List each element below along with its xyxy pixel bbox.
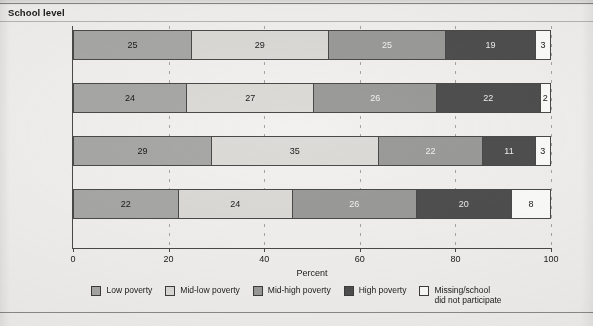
bar-value-label: 22 <box>425 147 435 156</box>
bar-row: 252925193 <box>73 30 551 60</box>
bar-value-label: 8 <box>528 200 533 209</box>
plot-area: 020406080100 Total252925193Elementary242… <box>73 26 551 248</box>
axis-tick <box>455 248 456 252</box>
bar-segment: 22 <box>74 190 179 218</box>
x-tick-label: 20 <box>164 254 174 264</box>
x-tick-label: 100 <box>543 254 558 264</box>
bar-value-label: 24 <box>230 200 240 209</box>
bar-row: 222426208 <box>73 189 551 219</box>
legend-item[interactable]: High poverty <box>344 286 407 296</box>
legend-item[interactable]: Low poverty <box>91 286 152 296</box>
legend-label: Missing/school did not participate <box>434 286 501 305</box>
axis-tick <box>169 248 170 252</box>
x-tick-label: 80 <box>450 254 460 264</box>
bar-segment: 35 <box>212 137 379 165</box>
bar-value-label: 3 <box>540 41 545 50</box>
bar-segment: 24 <box>74 84 187 112</box>
x-tick-label: 0 <box>70 254 75 264</box>
bar-segment: 27 <box>187 84 314 112</box>
bar-segment: 11 <box>483 137 535 165</box>
bar-segment: 29 <box>192 31 329 59</box>
bar-segment: 26 <box>314 84 437 112</box>
bar-segment: 20 <box>417 190 512 218</box>
legend-item[interactable]: Mid-high poverty <box>253 286 331 296</box>
figure: School level 020406080100 Total252925193… <box>0 0 593 326</box>
bar-segment: 3 <box>536 137 550 165</box>
bar-segment: 29 <box>74 137 212 165</box>
bar-value-label: 29 <box>138 147 148 156</box>
bar-segment: 22 <box>379 137 484 165</box>
bar-value-label: 2 <box>543 94 548 103</box>
bar-segment: 2 <box>541 84 550 112</box>
bar-segment: 26 <box>293 190 417 218</box>
legend-label: Low poverty <box>106 286 152 296</box>
bar-value-label: 24 <box>125 94 135 103</box>
bar-value-label: 20 <box>459 200 469 209</box>
legend-item[interactable]: Missing/school did not participate <box>419 286 501 305</box>
x-tick-label: 40 <box>259 254 269 264</box>
bar-segment: 24 <box>179 190 293 218</box>
bar-segment: 19 <box>446 31 536 59</box>
legend-item[interactable]: Mid-low poverty <box>165 286 240 296</box>
bar-value-label: 26 <box>349 200 359 209</box>
gridline <box>551 26 552 248</box>
bar-segment: 25 <box>329 31 447 59</box>
bar-value-label: 27 <box>245 94 255 103</box>
legend-swatch-icon <box>253 286 263 296</box>
legend-swatch-icon <box>344 286 354 296</box>
page-title: School level <box>8 7 65 18</box>
top-divider <box>0 3 593 4</box>
bar-value-label: 22 <box>121 200 131 209</box>
bar-segment: 25 <box>74 31 192 59</box>
legend: Low povertyMid-low povertyMid-high pover… <box>0 286 593 305</box>
axis-tick <box>73 248 74 252</box>
bottom-divider <box>0 312 593 313</box>
legend-swatch-icon <box>419 286 429 296</box>
x-axis-line <box>72 248 552 249</box>
bar-segment: 22 <box>437 84 541 112</box>
axis-tick <box>360 248 361 252</box>
bar-value-label: 25 <box>382 41 392 50</box>
bar-value-label: 3 <box>540 147 545 156</box>
title-divider <box>0 21 593 22</box>
bar-segment: 3 <box>536 31 550 59</box>
legend-swatch-icon <box>91 286 101 296</box>
legend-label: Mid-high poverty <box>268 286 331 296</box>
legend-label: High poverty <box>359 286 407 296</box>
x-tick-label: 60 <box>355 254 365 264</box>
bar-row: 293522113 <box>73 136 551 166</box>
bar-segment: 8 <box>512 190 550 218</box>
bar-value-label: 25 <box>127 41 137 50</box>
bar-value-label: 19 <box>486 41 496 50</box>
axis-tick <box>551 248 552 252</box>
legend-swatch-icon <box>165 286 175 296</box>
bar-value-label: 29 <box>255 41 265 50</box>
legend-label: Mid-low poverty <box>180 286 240 296</box>
bar-value-label: 26 <box>370 94 380 103</box>
bar-value-label: 22 <box>483 94 493 103</box>
axis-tick <box>264 248 265 252</box>
x-axis-title: Percent <box>296 268 327 278</box>
bar-value-label: 35 <box>290 147 300 156</box>
bar-row: 242726222 <box>73 83 551 113</box>
bar-value-label: 11 <box>504 147 513 156</box>
